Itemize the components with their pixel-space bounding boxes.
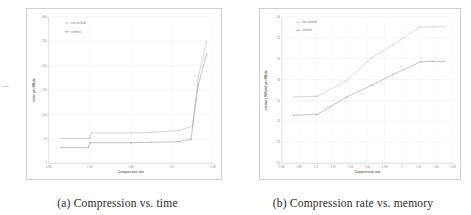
- chart-a-ytick: 250: [42, 39, 47, 43]
- series-verified: [61, 54, 206, 148]
- chart-b-legend-item: verified: [302, 28, 312, 32]
- figure-panel-b: 1.861.881.91.921.941.961.9822.022.042.06…: [235, 0, 471, 215]
- chart-a-ytick: 100: [42, 113, 47, 117]
- chart-a-legend-item: not-verified: [71, 21, 86, 25]
- chart-b-xtick: 1.92: [330, 165, 336, 169]
- chart-b-legend-item: not-verified: [302, 20, 317, 24]
- chart-b-ytick: 30: [277, 57, 281, 61]
- chart-b-xtick: 1.94: [348, 165, 354, 169]
- chart-a-plot-area: 1.861.911.962.012.06 050100150200250300 …: [26, 8, 222, 180]
- caption-a: (a) Compression vs. time: [0, 197, 235, 209]
- chart-b-ytick: 24: [277, 119, 281, 123]
- chart-b-xtick: 1.9: [314, 165, 318, 169]
- chart-a-ytick: 150: [42, 88, 47, 92]
- figure-panel-a: 1.861.911.962.012.06 050100150200250300 …: [0, 0, 235, 215]
- chart-b-ytick: 32: [277, 36, 281, 40]
- chart-a-xtick: 1.86: [46, 165, 52, 169]
- chart-a-legend-item: verified: [71, 30, 81, 34]
- chart-b-xtick: 2.02: [416, 165, 422, 169]
- chart-b-ytick: 22: [277, 140, 281, 144]
- chart-a-xtick: 1.96: [128, 165, 134, 169]
- chart-b-xtick: 1.96: [365, 165, 371, 169]
- chart-b-yaxis-label: memory (MByte) per MByte: [264, 70, 268, 110]
- chart-b-plot-area: 1.861.881.91.921.941.961.9822.022.042.06…: [259, 8, 461, 180]
- figure-row: 1.861.911.962.012.06 050100150200250300 …: [0, 0, 471, 215]
- chart-b-ytick: 26: [277, 99, 281, 103]
- caption-b: (b) Compression rate vs. memory: [235, 197, 471, 209]
- chart-a-ytick: 200: [42, 64, 47, 68]
- chart-a-xtick: 1.91: [87, 165, 93, 169]
- chart-b-xtick: 1.98: [382, 165, 388, 169]
- chart-b-ytick: 20: [277, 161, 281, 165]
- chart-b-xtick: 2.06: [450, 165, 456, 169]
- series-verified: [294, 61, 445, 115]
- chart-b-xaxis-label: Compression rate: [354, 170, 380, 174]
- chart-b-xtick: 2.04: [433, 165, 439, 169]
- chart-b-svg: 1.861.881.91.921.941.961.9822.022.042.06…: [260, 9, 460, 179]
- scan-artifact: [2, 86, 9, 87]
- chart-a-xtick: 2.01: [169, 165, 175, 169]
- chart-b-ytick: 28: [277, 78, 281, 82]
- chart-b-xtick: 1.88: [296, 165, 302, 169]
- chart-b-ytick: 34: [277, 15, 281, 19]
- chart-b-xtick: 2: [401, 165, 403, 169]
- chart-b-xtick: 1.86: [279, 165, 285, 169]
- chart-a-xaxis-label: Compression rate: [118, 170, 144, 174]
- chart-a-svg: 1.861.911.962.012.06 050100150200250300 …: [27, 9, 221, 179]
- chart-a-ytick: 300: [42, 15, 47, 19]
- chart-a-yaxis-label: msec per MByte: [32, 78, 36, 102]
- chart-a-ytick: 50: [44, 137, 48, 141]
- chart-a-xtick: 2.06: [210, 165, 216, 169]
